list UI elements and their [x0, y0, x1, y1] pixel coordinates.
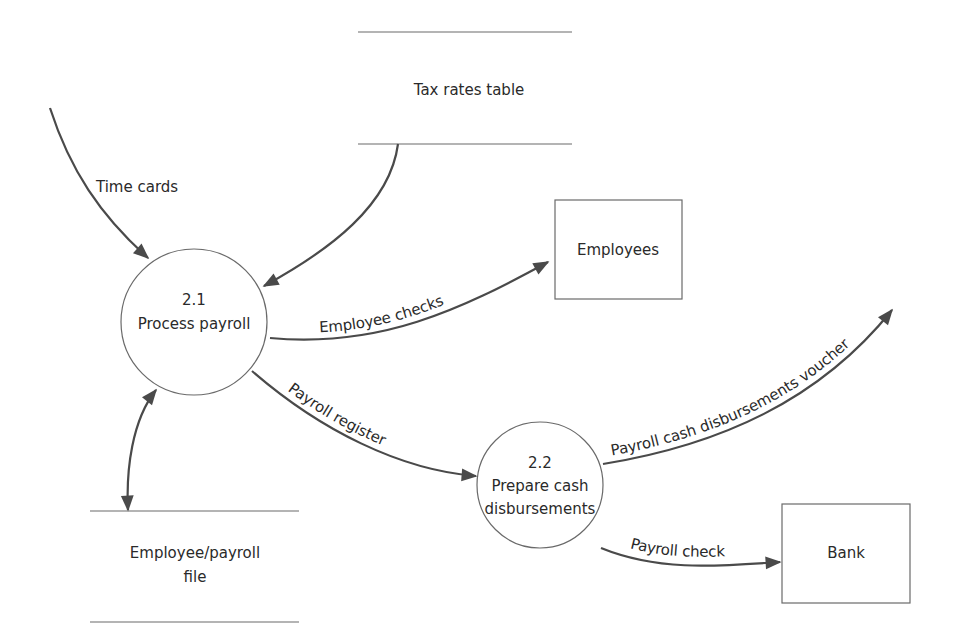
- flow-employee-payroll-file-bidirectional[interactable]: [128, 390, 156, 510]
- data-store-label: Tax rates table: [413, 81, 525, 99]
- flow-time-cards[interactable]: Time cards: [50, 108, 178, 258]
- process-2-2-prepare-cash-disbursements[interactable]: 2.2 Prepare cash disbursements: [477, 422, 603, 548]
- process-name-line2: disbursements: [485, 500, 596, 518]
- flow-tax-rates-to-process[interactable]: [264, 144, 398, 286]
- arrow-tax-rates: [264, 144, 398, 286]
- entity-bank[interactable]: Bank: [782, 504, 910, 603]
- flow-label: Payroll cash disbursements voucher: [609, 334, 853, 459]
- arrow-employee-checks: [270, 262, 548, 340]
- flow-label: Employee checks: [319, 291, 446, 336]
- flow-label: Payroll check: [629, 535, 726, 561]
- double-arrow-employee-file: [128, 390, 156, 510]
- entity-label: Employees: [577, 241, 659, 259]
- flow-payroll-check[interactable]: Payroll check: [601, 535, 780, 566]
- process-2-1-process-payroll[interactable]: 2.1 Process payroll: [121, 249, 267, 395]
- process-name-line1: Prepare cash: [491, 477, 588, 495]
- data-store-employee-payroll-file[interactable]: Employee/payroll file: [90, 511, 299, 622]
- flow-label: Payroll register: [285, 379, 390, 449]
- flow-payroll-register[interactable]: Payroll register: [252, 371, 476, 476]
- data-store-label-line2: file: [184, 568, 207, 586]
- payroll-data-flow-diagram: Tax rates table Employee/payroll file 2.…: [0, 0, 959, 639]
- data-store-tax-rates-table[interactable]: Tax rates table: [358, 32, 572, 144]
- process-number: 2.2: [528, 454, 552, 472]
- flow-employee-checks[interactable]: Employee checks: [270, 262, 548, 340]
- flow-label: Time cards: [95, 178, 178, 196]
- data-store-label-line1: Employee/payroll: [130, 544, 260, 562]
- flow-payroll-cash-disbursements-voucher[interactable]: Payroll cash disbursements voucher: [603, 310, 892, 464]
- process-name: Process payroll: [138, 315, 251, 333]
- process-number: 2.1: [182, 291, 206, 309]
- entity-label: Bank: [827, 544, 865, 562]
- entity-employees[interactable]: Employees: [555, 200, 682, 299]
